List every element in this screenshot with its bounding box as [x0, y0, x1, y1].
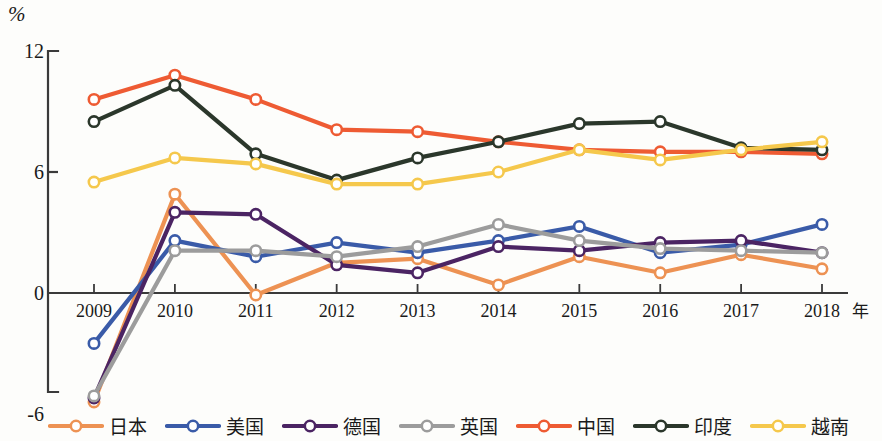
- data-point-marker: [332, 252, 342, 262]
- line-chart-plot: [0, 0, 882, 441]
- legend-swatch-icon: [48, 418, 104, 434]
- data-point-marker: [493, 241, 503, 251]
- data-point-marker: [170, 246, 180, 256]
- y-axis-spine: [48, 51, 58, 392]
- data-point-marker: [493, 137, 503, 147]
- data-point-marker: [574, 145, 584, 155]
- legend-item[interactable]: 英国: [399, 412, 498, 439]
- data-point-marker: [251, 246, 261, 256]
- series-印度: [89, 80, 827, 185]
- series-line: [94, 85, 822, 180]
- data-point-marker: [89, 94, 99, 104]
- chart-legend: 日本美国德国英国中国印度越南: [48, 412, 868, 439]
- chart-series-layer: [89, 70, 827, 407]
- data-point-marker: [332, 179, 342, 189]
- legend-item[interactable]: 越南: [750, 412, 849, 439]
- data-point-marker: [170, 207, 180, 217]
- data-point-marker: [251, 159, 261, 169]
- data-point-marker: [412, 179, 422, 189]
- data-point-marker: [412, 127, 422, 137]
- data-point-marker: [251, 94, 261, 104]
- data-point-marker: [493, 280, 503, 290]
- series-line: [94, 224, 822, 396]
- legend-label: 越南: [811, 412, 849, 439]
- data-point-marker: [736, 145, 746, 155]
- data-point-marker: [89, 177, 99, 187]
- data-point-marker: [574, 235, 584, 245]
- data-point-marker: [170, 189, 180, 199]
- legend-label: 美国: [226, 412, 264, 439]
- legend-label: 日本: [109, 412, 147, 439]
- series-美国: [89, 219, 827, 348]
- chart-page: % 年 1260-6 20092010201120122013201420152…: [0, 0, 882, 441]
- chart-axes: [48, 51, 848, 392]
- data-point-marker: [655, 268, 665, 278]
- data-point-marker: [412, 153, 422, 163]
- series-日本: [89, 189, 827, 407]
- data-point-marker: [655, 116, 665, 126]
- data-point-marker: [170, 80, 180, 90]
- legend-swatch-icon: [750, 418, 806, 434]
- legend-item[interactable]: 中国: [516, 412, 615, 439]
- data-point-marker: [817, 219, 827, 229]
- series-中国: [89, 70, 827, 159]
- data-point-marker: [655, 243, 665, 253]
- data-point-marker: [89, 391, 99, 401]
- data-point-marker: [493, 219, 503, 229]
- legend-swatch-icon: [399, 418, 455, 434]
- data-point-marker: [412, 241, 422, 251]
- data-point-marker: [89, 116, 99, 126]
- legend-swatch-icon: [516, 418, 572, 434]
- series-line: [94, 75, 822, 154]
- legend-item[interactable]: 日本: [48, 412, 147, 439]
- data-point-marker: [332, 125, 342, 135]
- series-越南: [89, 137, 827, 190]
- legend-label: 德国: [343, 412, 381, 439]
- legend-swatch-icon: [633, 418, 689, 434]
- series-line: [94, 212, 822, 398]
- data-point-marker: [89, 338, 99, 348]
- legend-label: 中国: [577, 412, 615, 439]
- legend-swatch-icon: [282, 418, 338, 434]
- data-point-marker: [251, 290, 261, 300]
- data-point-marker: [817, 137, 827, 147]
- data-point-marker: [332, 237, 342, 247]
- legend-swatch-icon: [165, 418, 221, 434]
- legend-label: 印度: [694, 412, 732, 439]
- data-point-marker: [817, 248, 827, 258]
- series-line: [94, 194, 822, 402]
- data-point-marker: [412, 268, 422, 278]
- data-point-marker: [817, 264, 827, 274]
- legend-item[interactable]: 印度: [633, 412, 732, 439]
- data-point-marker: [574, 118, 584, 128]
- data-point-marker: [493, 167, 503, 177]
- data-point-marker: [170, 153, 180, 163]
- data-point-marker: [655, 155, 665, 165]
- data-point-marker: [736, 246, 746, 256]
- data-point-marker: [574, 221, 584, 231]
- legend-item[interactable]: 美国: [165, 412, 264, 439]
- legend-label: 英国: [460, 412, 498, 439]
- data-point-marker: [251, 209, 261, 219]
- legend-item[interactable]: 德国: [282, 412, 381, 439]
